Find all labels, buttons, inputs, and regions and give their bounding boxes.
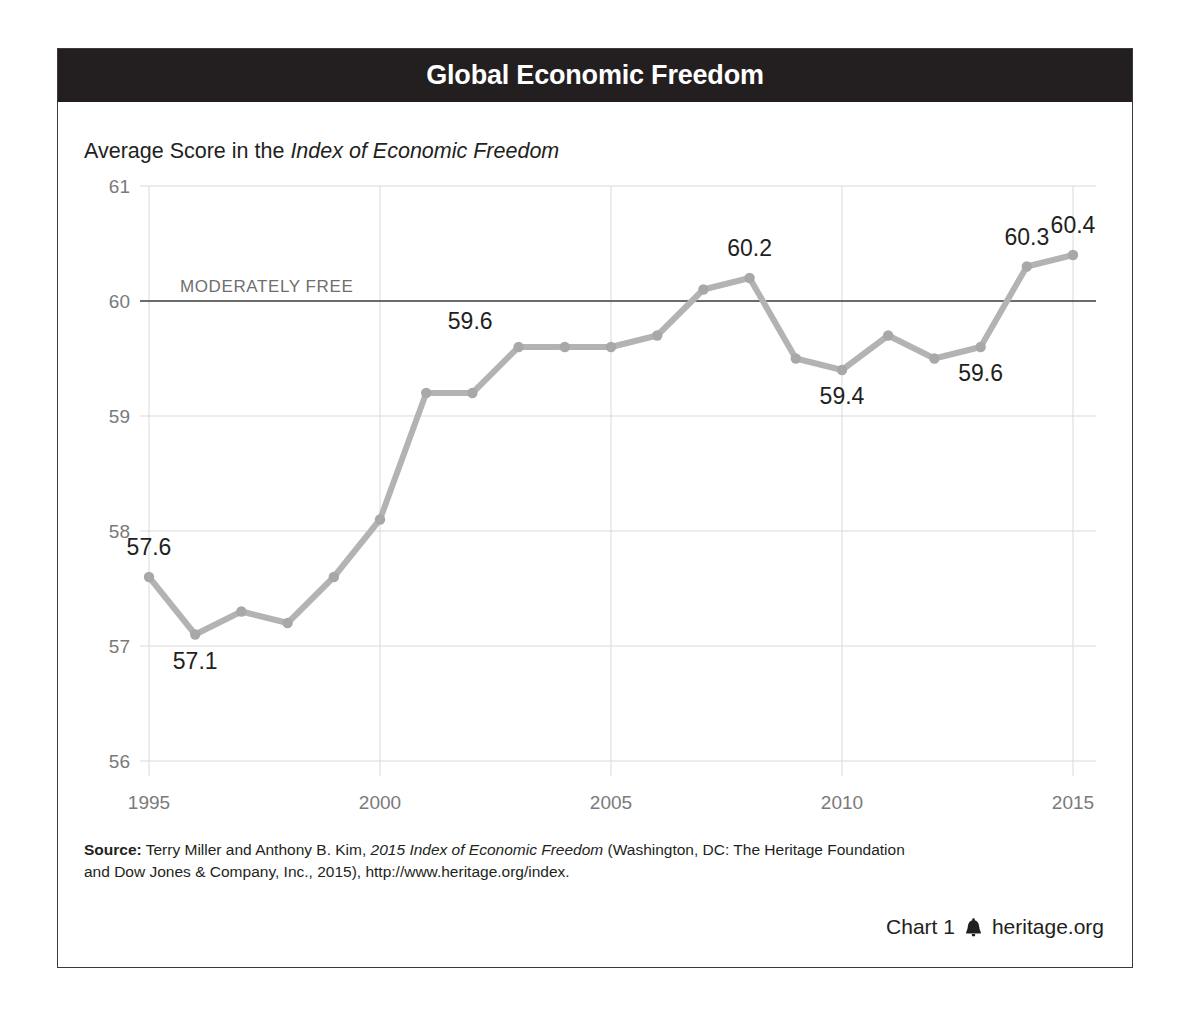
data-point <box>606 342 616 352</box>
data-point <box>929 353 939 363</box>
data-point-label: 57.1 <box>173 648 218 674</box>
data-point <box>144 572 154 582</box>
x-tick-label: 2000 <box>359 792 401 813</box>
data-point <box>329 572 339 582</box>
data-point <box>1022 261 1032 271</box>
x-axis-tick-labels: 19952000200520102015 <box>128 792 1094 813</box>
x-tick-label: 2010 <box>821 792 863 813</box>
chart-card: Global Economic Freedom Average Score in… <box>57 48 1133 968</box>
x-tick-label: 1995 <box>128 792 170 813</box>
x-tick-label: 2005 <box>590 792 632 813</box>
site-name: heritage.org <box>992 915 1104 939</box>
data-point-label: 57.6 <box>127 534 172 560</box>
liberty-bell-icon <box>964 917 983 937</box>
data-point <box>975 342 985 352</box>
x-gridlines <box>149 186 1073 776</box>
chart-number: Chart 1 <box>886 915 955 939</box>
source-text-b: (Washington, DC: The Heritage Foundation <box>603 841 905 858</box>
data-point-label: 59.6 <box>448 308 493 334</box>
y-tick-label: 60 <box>109 291 130 312</box>
reference-line-label: MODERATELY FREE <box>180 277 353 296</box>
y-gridlines <box>140 186 1096 761</box>
data-point-label: 59.4 <box>820 383 865 409</box>
moderately-free-label: MODERATELY FREE <box>180 277 353 296</box>
x-tick-label: 2015 <box>1052 792 1094 813</box>
source-label: Source: <box>84 841 142 858</box>
data-point <box>698 284 708 294</box>
y-tick-label: 57 <box>109 636 130 657</box>
data-point <box>560 342 570 352</box>
y-axis-tick-labels: 565758596061 <box>109 176 130 772</box>
data-point <box>744 273 754 283</box>
plot-area: 565758596061 19952000200520102015 57.657… <box>58 49 1134 969</box>
data-point <box>837 365 847 375</box>
data-point <box>282 618 292 628</box>
data-point <box>883 330 893 340</box>
data-point <box>236 606 246 616</box>
data-point-label: 60.3 <box>1004 224 1049 250</box>
data-point-label: 60.2 <box>727 235 772 261</box>
line-chart-svg: 565758596061 19952000200520102015 57.657… <box>58 49 1134 969</box>
data-point <box>421 388 431 398</box>
source-line-2: and Dow Jones & Company, Inc., 2015), ht… <box>84 863 570 880</box>
data-point <box>791 353 801 363</box>
data-point-label: 60.4 <box>1051 212 1096 238</box>
data-point <box>190 629 200 639</box>
data-point <box>467 388 477 398</box>
y-tick-label: 59 <box>109 406 130 427</box>
data-point-label: 59.6 <box>958 360 1003 386</box>
y-tick-label: 61 <box>109 176 130 197</box>
source-title-italic: 2015 Index of Economic Freedom <box>371 841 604 858</box>
data-point <box>1068 250 1078 260</box>
chart-footer: Chart 1 heritage.org <box>886 915 1104 939</box>
data-point <box>513 342 523 352</box>
data-point <box>375 514 385 524</box>
data-point <box>652 330 662 340</box>
source-text-a: Terry Miller and Anthony B. Kim, <box>142 841 371 858</box>
source-note: Source: Terry Miller and Anthony B. Kim,… <box>84 839 1104 884</box>
y-tick-label: 56 <box>109 751 130 772</box>
